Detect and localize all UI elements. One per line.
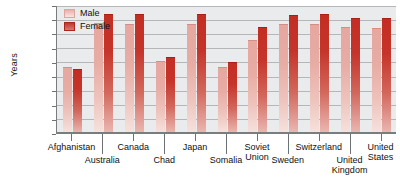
- bar-male-australia[interactable]: [94, 23, 103, 134]
- y-tick-mark: [52, 106, 56, 107]
- y-tick-mark: [52, 6, 56, 7]
- x-tick-label-australia: Australia: [85, 155, 120, 165]
- x-tick-label-canada: Canada: [118, 142, 150, 152]
- legend: Male Female: [62, 6, 114, 36]
- bar-male-sweden[interactable]: [279, 24, 288, 133]
- bar-group: [187, 6, 206, 133]
- bar-female-somalia[interactable]: [228, 62, 237, 133]
- legend-swatch-male-icon: [64, 9, 75, 18]
- x-tick-mark: [288, 134, 289, 154]
- bar-group: [125, 6, 144, 133]
- bar-female-soviet-union[interactable]: [258, 27, 267, 133]
- legend-label-female: Female: [80, 22, 110, 31]
- x-tick-label-somalia: Somalia: [210, 155, 243, 165]
- legend-item-male[interactable]: Male: [64, 8, 110, 19]
- bar-group: [248, 6, 267, 133]
- x-tick-mark: [133, 134, 134, 141]
- bar-group: [279, 6, 298, 133]
- bar-female-afghanistan[interactable]: [73, 69, 82, 133]
- bar-group: [372, 6, 391, 133]
- y-tick-mark: [52, 20, 56, 21]
- bar-female-switzerland[interactable]: [320, 14, 329, 133]
- x-tick-label-switzerland: Switzerland: [295, 142, 342, 152]
- bar-male-afghanistan[interactable]: [63, 67, 72, 133]
- x-tick-mark: [164, 134, 165, 154]
- bar-male-canada[interactable]: [125, 24, 134, 133]
- bar-male-somalia[interactable]: [218, 67, 227, 133]
- y-tick-mark: [52, 77, 56, 78]
- x-tick-mark: [226, 134, 227, 154]
- bar-female-united-states[interactable]: [382, 18, 391, 133]
- x-tick-label-afghanistan: Afghanistan: [48, 142, 96, 152]
- x-tick-mark: [71, 134, 72, 141]
- bar-male-switzerland[interactable]: [310, 24, 319, 133]
- bar-male-united-states[interactable]: [372, 28, 381, 133]
- y-tick-mark: [52, 63, 56, 64]
- x-axis-labels: AfghanistanAustraliaCanadaChadJapanSomal…: [0, 134, 400, 192]
- y-tick-mark: [52, 91, 56, 92]
- y-tick-mark: [52, 120, 56, 121]
- x-tick-mark: [257, 134, 258, 141]
- bar-female-japan[interactable]: [197, 14, 206, 133]
- x-tick-label-sweden: Sweden: [272, 155, 305, 165]
- bar-male-chad[interactable]: [156, 61, 165, 133]
- x-tick-mark: [350, 134, 351, 154]
- x-tick-label-united-states: United States: [368, 142, 394, 162]
- y-tick-mark: [52, 34, 56, 35]
- y-axis-title: Years: [9, 35, 19, 95]
- bar-group: [156, 6, 175, 133]
- x-tick-label-soviet-union: Soviet Union: [244, 142, 269, 162]
- bar-group: [218, 6, 237, 133]
- bar-chart: Years 0102030405060708090 Male Female Af…: [0, 0, 400, 192]
- legend-item-female[interactable]: Female: [64, 21, 110, 32]
- bar-female-chad[interactable]: [166, 57, 175, 133]
- legend-swatch-female-icon: [64, 22, 75, 31]
- x-tick-mark: [319, 134, 320, 141]
- x-tick-label-japan: Japan: [183, 142, 208, 152]
- x-tick-mark: [102, 134, 103, 154]
- x-tick-mark: [195, 134, 196, 141]
- legend-label-male: Male: [80, 9, 100, 18]
- x-tick-label-chad: Chad: [153, 155, 175, 165]
- bar-female-united-kingdom[interactable]: [351, 18, 360, 133]
- bar-male-united-kingdom[interactable]: [341, 27, 350, 133]
- x-tick-mark: [381, 134, 382, 141]
- bar-male-soviet-union[interactable]: [248, 40, 257, 133]
- bar-group: [341, 6, 360, 133]
- bar-group: [310, 6, 329, 133]
- bar-female-canada[interactable]: [135, 14, 144, 133]
- bar-female-sweden[interactable]: [289, 15, 298, 133]
- y-tick-mark: [52, 49, 56, 50]
- x-axis-line: [57, 132, 396, 133]
- bar-male-japan[interactable]: [187, 24, 196, 133]
